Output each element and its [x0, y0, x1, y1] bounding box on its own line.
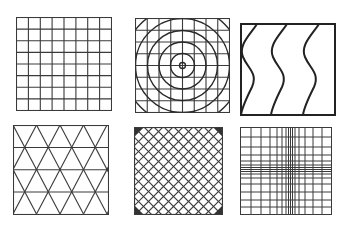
concentric-circles-figure: [135, 18, 230, 113]
wavy-lines-figure: [240, 23, 336, 116]
crosshatch-figure: [134, 127, 223, 215]
graded-grid-figure: [240, 127, 332, 215]
panel-regular-grid: [16, 17, 112, 111]
panel-graded-grid: [240, 127, 332, 215]
panel-wavy-lines: [240, 23, 336, 116]
triangular-grid-figure: [13, 125, 109, 215]
panel-diagonal-crosshatch: [134, 127, 223, 215]
panel-grid-with-circles: [135, 18, 230, 113]
regular-grid-figure: [16, 17, 112, 111]
panel-triangular-grid: [13, 125, 109, 215]
